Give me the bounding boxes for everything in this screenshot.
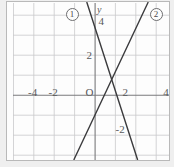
y-tick-label-2: 2 [87,50,93,61]
line-label-1: 1 [66,8,79,21]
plot-panel: -4 -2 2 4 4 2 -2 O y x 1 2 [6,1,170,161]
line-label-2: 2 [150,8,163,21]
y-axis-name: y [97,5,101,15]
line-2 [74,3,148,160]
origin-label: O [86,87,94,98]
grid-lines [7,2,170,161]
x-tick-label-4: 4 [163,87,169,98]
y-tick-label-4: 4 [99,16,105,27]
x-tick-label-2: 2 [123,87,129,98]
graph-figure: -4 -2 2 4 4 2 -2 O y x 1 2 [0,0,174,167]
x-tick-label--4: -4 [28,87,37,98]
x-tick-label--2: -2 [49,87,58,98]
line-1 [87,3,138,160]
axes [7,2,170,161]
plotted-lines [7,2,170,161]
y-tick-label--2: -2 [116,124,125,135]
